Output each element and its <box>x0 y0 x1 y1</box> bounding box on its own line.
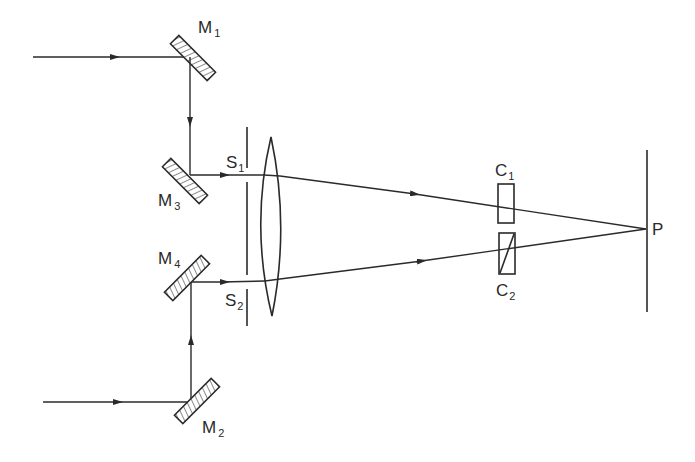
label-m3: M3 <box>158 191 180 212</box>
cell-c2 <box>499 233 515 274</box>
mirror-m1 <box>170 35 215 80</box>
beam-lower-to-p <box>265 229 646 281</box>
label-s2: S2 <box>225 291 243 312</box>
beam-upper-to-p <box>264 175 646 229</box>
label-m1: M1 <box>198 18 220 39</box>
beam-m4-lens <box>220 281 265 282</box>
mirror-m2 <box>174 378 219 423</box>
label-c2: C2 <box>496 281 515 302</box>
label-c1: C1 <box>495 161 514 182</box>
label-m2: M2 <box>202 418 224 439</box>
label-s1: S1 <box>226 153 244 174</box>
optical-diagram: M1 M3 S1 S2 M4 <box>0 0 695 462</box>
label-m4: M4 <box>158 249 180 270</box>
cell-c1 <box>498 184 514 223</box>
lens <box>261 137 281 316</box>
label-p: P <box>652 220 663 239</box>
